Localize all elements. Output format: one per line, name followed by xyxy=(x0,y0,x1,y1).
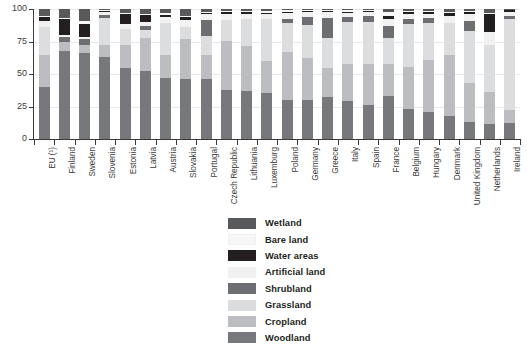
chart-figure: 0255075100 EU (¹)FinlandSwedenSloveniaEs… xyxy=(0,0,527,355)
bar-segment xyxy=(322,18,333,38)
bar-segment xyxy=(403,109,414,139)
legend-item: Woodland xyxy=(228,330,428,346)
bar-segment xyxy=(302,100,313,139)
bar-stack xyxy=(180,9,191,139)
x-tick-mark xyxy=(500,140,501,145)
plot-area xyxy=(34,9,520,139)
x-axis-label: Luxemburg xyxy=(270,147,279,188)
bar-segment xyxy=(160,55,171,78)
legend-item: Wetland xyxy=(228,215,428,231)
y-tick-label: 25 xyxy=(0,101,27,111)
bar-stack xyxy=(484,9,495,139)
x-tick-mark xyxy=(257,140,258,145)
bar-segment xyxy=(464,31,475,83)
x-axis-label: Latvia xyxy=(149,147,158,169)
x-tick-mark xyxy=(115,140,116,145)
x-tick-mark xyxy=(196,140,197,145)
bar-segment xyxy=(59,9,70,18)
bar-stack xyxy=(79,9,90,139)
x-axis-label: Sweden xyxy=(88,147,97,177)
bar-segment xyxy=(302,58,313,100)
x-axis-label: Germany xyxy=(311,147,320,181)
x-tick-mark xyxy=(459,140,460,145)
y-tick-mark xyxy=(29,74,33,75)
x-tick-mark xyxy=(54,140,55,145)
y-tick-label: 100 xyxy=(0,3,27,13)
x-axis-label: Ireland xyxy=(513,147,522,172)
bar-segment xyxy=(423,112,434,139)
y-tick-mark xyxy=(29,107,33,108)
x-tick-mark xyxy=(156,140,157,145)
bar-segment xyxy=(99,18,110,45)
bar-segment xyxy=(180,79,191,139)
bar-segment xyxy=(241,91,252,139)
bar-segment xyxy=(140,38,151,71)
bar-segment xyxy=(342,64,353,100)
y-tick-label: 75 xyxy=(0,36,27,46)
x-tick-mark xyxy=(216,140,217,145)
x-axis-label: Italy xyxy=(351,147,360,162)
bar-stack xyxy=(140,9,151,139)
bar-segment xyxy=(59,19,70,35)
legend-swatch-icon xyxy=(228,332,256,343)
bar-segment xyxy=(302,25,313,58)
bar-stack xyxy=(99,9,110,139)
legend-swatch-icon xyxy=(228,218,256,229)
bar-segment xyxy=(261,19,272,61)
bar-segment xyxy=(180,39,191,79)
legend-swatch-icon xyxy=(228,283,256,294)
bar-segment xyxy=(241,46,252,91)
bar-segment xyxy=(39,27,50,56)
bar-segment xyxy=(302,17,313,24)
bar-segment xyxy=(464,83,475,122)
bar-stack xyxy=(383,9,394,139)
bar-stack xyxy=(363,9,374,139)
bar-stack xyxy=(282,9,293,139)
bar-segment xyxy=(160,23,171,56)
bar-segment xyxy=(504,110,515,122)
y-tick-mark xyxy=(29,139,33,140)
legend-label: Grassland xyxy=(265,300,311,310)
x-axis-label: Belgium xyxy=(412,147,421,177)
legend-item: Artificial land xyxy=(228,264,428,280)
x-tick-mark xyxy=(358,140,359,145)
bar-segment xyxy=(79,53,90,139)
bar-segment xyxy=(140,15,151,22)
bar-segment xyxy=(464,14,475,21)
bar-segment xyxy=(201,79,212,139)
x-axis-label: United Kingdom xyxy=(473,147,482,205)
bar-segment xyxy=(282,100,293,139)
legend-label: Wetland xyxy=(265,218,302,228)
legend-item: Water areas xyxy=(228,248,428,264)
x-tick-mark xyxy=(439,140,440,145)
bar-segment xyxy=(120,29,131,45)
bar-segment xyxy=(464,122,475,139)
x-tick-mark xyxy=(399,140,400,145)
legend-swatch-icon xyxy=(228,234,256,245)
bar-segment xyxy=(383,64,394,97)
legend-swatch-icon xyxy=(228,250,256,261)
bar-segment xyxy=(444,116,455,139)
y-tick-mark xyxy=(29,42,33,43)
legend-label: Woodland xyxy=(265,333,311,343)
x-axis-label: Lithuania xyxy=(250,147,259,180)
bar-segment xyxy=(342,101,353,139)
bar-segment xyxy=(140,30,151,38)
bar-stack xyxy=(504,9,515,139)
bar-segment xyxy=(140,71,151,139)
bar-stack xyxy=(322,9,333,139)
bar-segment xyxy=(504,19,515,110)
legend-swatch-icon xyxy=(228,316,256,327)
x-axis-label: Netherlands xyxy=(493,147,502,191)
x-axis-label: Greece xyxy=(331,147,340,174)
x-axis-label: Denmark xyxy=(453,147,462,180)
bar-segment xyxy=(282,23,293,52)
bar-stack xyxy=(120,9,131,139)
bar-stack xyxy=(423,9,434,139)
x-axis-label: EU (¹) xyxy=(48,147,57,169)
bar-segment xyxy=(201,20,212,36)
legend-label: Cropland xyxy=(265,317,307,327)
bar-segment xyxy=(484,45,495,92)
bar-segment xyxy=(180,27,191,39)
bar-segment xyxy=(79,45,90,53)
